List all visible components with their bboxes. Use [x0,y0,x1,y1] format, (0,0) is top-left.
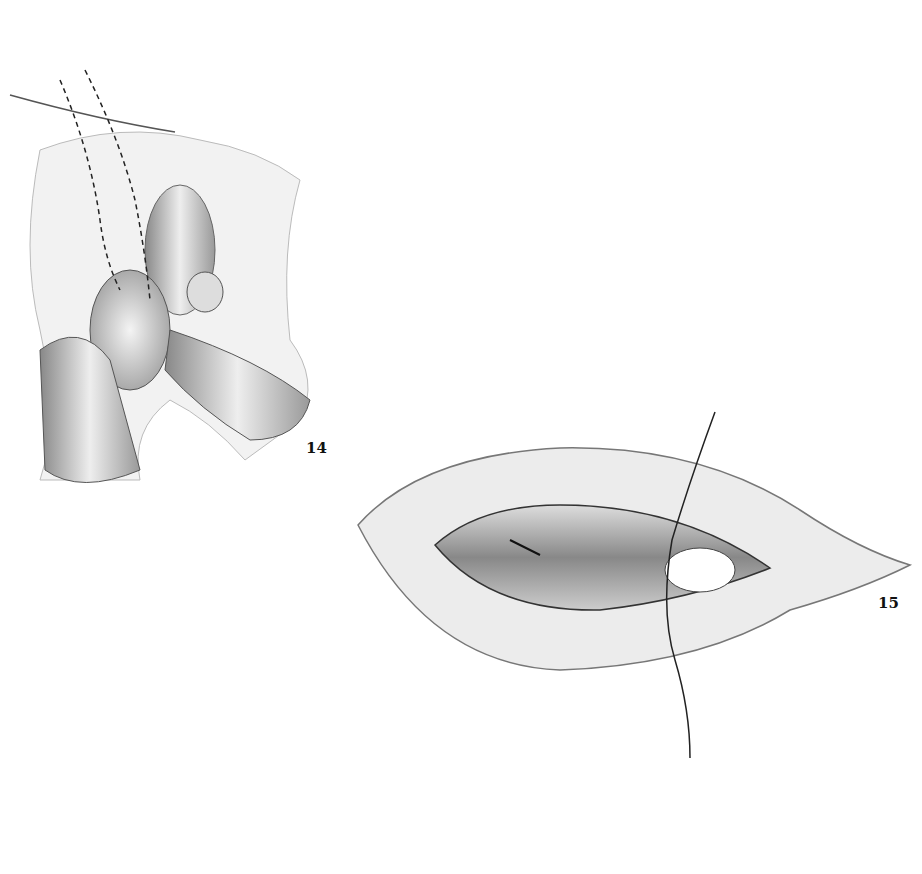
figure-15-label: 15 [878,594,899,612]
figure-15-drawing [355,410,915,760]
figure-14-illustration [0,60,330,490]
figure-14-drawing [0,60,330,490]
figure-14-label: 14 [306,439,327,457]
figure-15-illustration [355,410,915,760]
